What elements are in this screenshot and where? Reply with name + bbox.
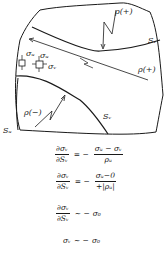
rho-minus-label: ρ(−) (24, 109, 42, 117)
rho-plus-top-label: ρ(+) (115, 8, 133, 16)
stress-element-1 (19, 60, 25, 66)
equation-2: ∂σᵥ∂Sᵥ = − σᵤ−0+|ρᵤ| (54, 172, 118, 191)
sigma-u-label-1: σᵤ (26, 50, 35, 58)
rho-plus-mid-label: ρ(+) (138, 66, 156, 74)
equation-3: ∂σᵥ∂Sᵥ ∼ − σ₀ (54, 204, 101, 223)
zigzag-mid (80, 58, 93, 68)
sigma-u-label-2: σᵤ (40, 52, 49, 60)
stress-element-2 (36, 61, 43, 68)
trajectory-curve-top (32, 27, 160, 51)
s-u-left-label: Sᵤ (3, 127, 12, 135)
s-v-bottom-label: Sᵥ (103, 113, 111, 121)
equation-1: ∂σᵥ∂Sᵥ = − σᵤ − σᵥρᵤ (53, 145, 125, 164)
equations-block: ∂σᵥ∂Sᵥ = − σᵤ − σᵥρᵤ ∂σᵥ∂Sᵥ = − σᵤ−0+|ρᵤ… (0, 140, 165, 258)
s-v-right-label: Sᵥ (148, 37, 156, 45)
equation-4: σᵥ ∼ − σ₀ (63, 236, 100, 245)
trajectory-curve-lower (16, 76, 108, 134)
sigma-v-label: σᵥ (48, 63, 56, 71)
